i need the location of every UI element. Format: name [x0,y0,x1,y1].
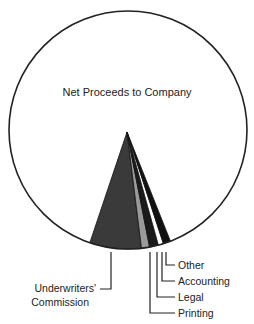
label-underwriters-line1: Underwriters' [34,282,96,294]
label-other: Other [178,259,205,271]
pie-chart: Net Proceeds to Company Underwriters' Co… [0,0,254,324]
leader-other [166,252,175,265]
label-net-proceeds: Net Proceeds to Company [62,86,192,98]
label-printing: Printing [178,307,214,319]
pie-slices [90,132,171,249]
label-legal: Legal [178,291,204,303]
label-underwriters-line2: Commission [31,296,89,308]
leader-accounting [162,252,175,281]
leader-underwriters [100,252,111,289]
label-accounting: Accounting [178,275,230,287]
